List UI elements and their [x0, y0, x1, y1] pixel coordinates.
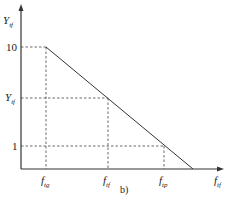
y-axis-title: Ytf [3, 14, 14, 29]
y-axis-arrow-icon [19, 4, 24, 11]
x-tick-ftf: ftf [103, 174, 111, 189]
figure-caption: b) [120, 184, 128, 196]
y-tick-ytf: Ytf [5, 91, 16, 106]
projection-lines [21, 47, 164, 169]
x-tick-ftg: ftg [41, 174, 50, 189]
y-tick-10: 10 [6, 41, 18, 53]
x-tick-ftp: ftp [159, 174, 168, 189]
x-axis-arrow-icon [217, 167, 224, 172]
x-axis-title: ftf [214, 174, 222, 189]
y-tick-1: 1 [12, 140, 18, 152]
diagram: Ytf 10 Ytf 1 ftg ftf ftp ftf b) [0, 0, 229, 197]
curve-diagonal [46, 47, 193, 169]
